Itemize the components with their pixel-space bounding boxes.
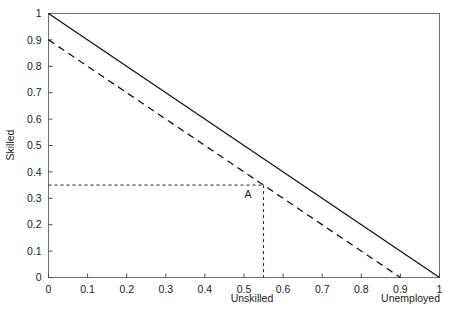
y-tick-label: 0.2: [27, 218, 42, 230]
annotation-guides: [49, 185, 264, 277]
y-tick-label: 0.7: [27, 86, 42, 98]
y-tick-label: 0.9: [27, 34, 42, 46]
series-solid-frontier: [49, 14, 440, 278]
chart-figure: 00.10.20.30.40.50.60.70.80.91 00.10.20.3…: [0, 0, 459, 318]
y-tick-label: 0.4: [27, 166, 42, 178]
y-tick-label: 1: [36, 7, 42, 19]
x-tick-label: 0.8: [354, 283, 369, 295]
data-series-layer: [49, 14, 440, 278]
y-tick-label: 0.5: [27, 139, 42, 151]
y-tick-label: 0.3: [27, 192, 42, 204]
y-tick-label: 0.8: [27, 60, 42, 72]
x-tick-label: 0.7: [315, 283, 330, 295]
annotation-label-A: A: [244, 188, 251, 200]
x-tick-label: 0.4: [198, 283, 213, 295]
y-axis-title: Skilled: [4, 129, 16, 160]
x-axis-title-unskilled: Unskilled: [231, 292, 274, 304]
x-axis-title-unemployed: Unemployed: [381, 292, 440, 304]
y-tick-label: 0.1: [27, 245, 42, 257]
series-dashed-frontier: [49, 40, 401, 278]
x-tick-label: 0.1: [80, 283, 95, 295]
x-tick-label: 0.2: [119, 283, 134, 295]
x-tick-label: 0: [46, 283, 52, 295]
x-tick-label: 0.6: [276, 283, 291, 295]
y-tick-label: 0: [36, 271, 42, 283]
y-tick-label: 0.6: [27, 113, 42, 125]
x-tick-label: 0.3: [158, 283, 173, 295]
annotation-labels: A: [244, 188, 251, 200]
chart-canvas: 00.10.20.30.40.50.60.70.80.91 00.10.20.3…: [0, 0, 459, 318]
